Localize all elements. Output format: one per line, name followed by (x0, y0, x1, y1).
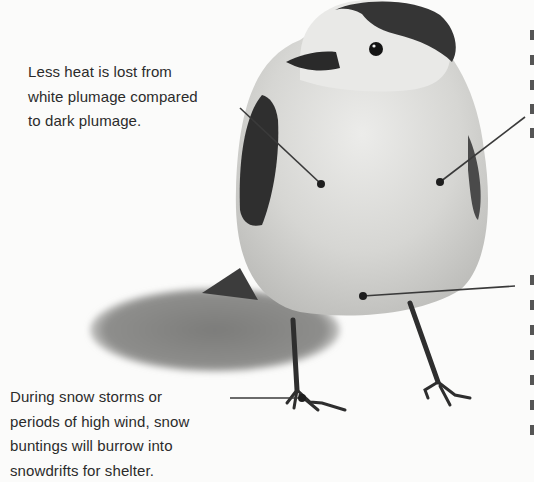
callout-line: Less heat is lost from (28, 60, 198, 85)
right-edge-text-fragments (530, 30, 534, 435)
bird-eye (369, 42, 383, 56)
callout-line: buntings will burrow into (10, 434, 189, 459)
callout-shelter: During snow storms or periods of high wi… (10, 385, 189, 482)
bird-foot-left (287, 390, 345, 410)
pointer-dot-side (436, 178, 444, 186)
diagram-stage: Less heat is lost from white plumage com… (0, 0, 534, 482)
callout-line: During snow storms or (10, 385, 189, 410)
callout-line: periods of high wind, snow (10, 410, 189, 435)
callout-line: snowdrifts for shelter. (10, 459, 189, 482)
callout-plumage: Less heat is lost from white plumage com… (28, 60, 198, 134)
bird-foot-right (425, 382, 470, 405)
pointer-dot-foot (298, 394, 306, 402)
bird-leg-right (410, 303, 438, 382)
pointer-dot-plumage (317, 180, 325, 188)
callout-line: to dark plumage. (28, 109, 198, 134)
pointer-dot-belly (359, 292, 367, 300)
callout-line: white plumage compared (28, 85, 198, 110)
